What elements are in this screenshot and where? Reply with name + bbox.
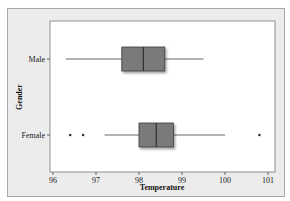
outlier-point	[82, 134, 85, 137]
x-tick-label: 100	[219, 176, 231, 185]
outlier-point	[69, 134, 72, 137]
x-tick-label: 97	[92, 176, 100, 185]
y-category-label: Male	[29, 55, 46, 64]
x-tick-label: 101	[262, 176, 274, 185]
boxplot-chart: 96979899100101 MaleFemale Temperature Ge…	[0, 0, 290, 201]
x-tick-label: 96	[49, 176, 57, 185]
outlier-point	[258, 134, 261, 137]
x-axis-title: Temperature	[140, 183, 185, 192]
y-axis: MaleFemale	[21, 55, 50, 140]
plot-area	[50, 21, 275, 172]
y-category-label: Female	[21, 131, 45, 140]
y-axis-title: Gender	[15, 84, 24, 110]
